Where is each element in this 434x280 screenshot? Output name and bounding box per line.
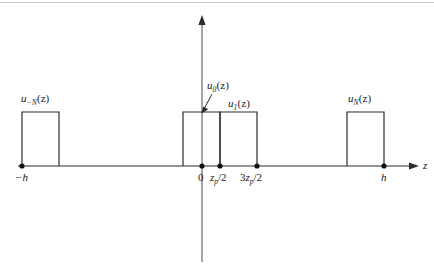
curve-label-u-minus-N-arg: (z) bbox=[37, 92, 50, 104]
tick-dot-zero bbox=[199, 163, 204, 168]
tick-label-three-zp-half-post: /2 bbox=[254, 171, 263, 183]
curve-label-u-1-arg: (z) bbox=[237, 97, 250, 109]
curve-label-u-0-arg: (z) bbox=[216, 79, 229, 91]
tick-label-zp-half-sub: p bbox=[214, 177, 218, 186]
axis-label-z: z bbox=[423, 160, 427, 171]
figure-canvas: u−N(z) u0(z) u1(z) uN(z) z −h 0 zp/2 3zp… bbox=[0, 0, 434, 280]
tick-label-zero: 0 bbox=[198, 172, 204, 183]
curve-label-u-N-arg: (z) bbox=[359, 92, 372, 104]
tick-label-minus-h: −h bbox=[15, 172, 28, 183]
tick-label-three-zp-half-sub: p bbox=[250, 177, 254, 186]
x-axis-arrowhead bbox=[409, 162, 419, 169]
curve-label-u-N: uN(z) bbox=[348, 93, 371, 104]
tick-dot-three-zp-half bbox=[254, 163, 259, 168]
tick-dot-minus-h bbox=[19, 163, 24, 168]
tick-dot-zp-half bbox=[217, 163, 222, 168]
curve-label-u-0-sub: 0 bbox=[213, 85, 217, 94]
tick-label-h: h bbox=[381, 172, 387, 183]
curve-label-u-1-sub: 1 bbox=[234, 103, 238, 112]
y-axis bbox=[198, 15, 205, 262]
pulse-u-1 bbox=[220, 112, 257, 166]
plot-svg bbox=[0, 0, 434, 280]
curve-label-u-minus-N: u−N(z) bbox=[21, 93, 49, 104]
u0-leader-arrow bbox=[202, 94, 213, 114]
curve-label-u-minus-N-sub: −N bbox=[27, 98, 37, 107]
y-axis-arrowhead bbox=[198, 15, 205, 25]
curve-label-u-1: u1(z) bbox=[228, 98, 250, 109]
curve-label-u-0: u0(z) bbox=[207, 80, 229, 91]
tick-label-zp-half-post: /2 bbox=[218, 171, 227, 183]
pulse-u-N bbox=[347, 112, 384, 166]
tick-label-zp-half: zp/2 bbox=[210, 172, 227, 183]
pulse-u-minus-N bbox=[22, 112, 59, 166]
tick-label-three-zp-half: 3zp/2 bbox=[240, 172, 262, 183]
tick-dot-h bbox=[381, 163, 386, 168]
curve-label-u-N-sub: N bbox=[354, 98, 359, 107]
